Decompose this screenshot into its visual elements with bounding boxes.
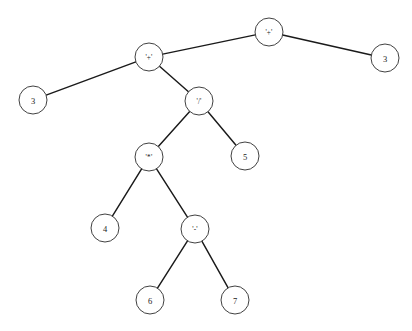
tree-node-n6[interactable]: 5 — [231, 142, 259, 170]
node-label-n0: '+' — [265, 29, 272, 37]
tree-edge-n5-n8 — [157, 169, 188, 217]
edge-layer — [46, 35, 371, 288]
tree-node-n1[interactable]: '+' — [135, 43, 163, 71]
node-label-n3: 3 — [31, 96, 35, 106]
expression-tree-figure: '+''+'33'/''*'54'-'67 — [0, 0, 412, 331]
node-label-n4: '/' — [196, 98, 201, 106]
tree-canvas: '+''+'33'/''*'54'-'67 — [0, 0, 412, 331]
tree-edge-n5-n7 — [112, 169, 141, 216]
node-label-n9: 6 — [148, 296, 152, 306]
tree-node-n2[interactable]: 3 — [371, 44, 399, 72]
tree-edge-n4-n6 — [208, 112, 236, 146]
tree-node-n10[interactable]: 7 — [221, 286, 249, 314]
node-layer: '+''+'33'/''*'54'-'67 — [19, 18, 399, 314]
tree-node-n0[interactable]: '+' — [255, 18, 283, 46]
node-label-n1: '+' — [145, 54, 152, 62]
node-label-n6: 5 — [243, 152, 247, 162]
node-label-n10: 7 — [233, 296, 237, 306]
tree-node-n5[interactable]: '*' — [135, 143, 163, 171]
node-label-n5: '*' — [146, 154, 153, 162]
tree-edge-n1-n3 — [46, 62, 136, 95]
tree-edge-n8-n9 — [157, 241, 187, 288]
tree-node-n3[interactable]: 3 — [19, 86, 47, 114]
tree-node-n8[interactable]: '-' — [181, 215, 209, 243]
node-label-n8: '-' — [192, 226, 198, 234]
tree-edge-n4-n5 — [158, 111, 189, 146]
tree-edge-n0-n2 — [283, 35, 372, 55]
tree-node-n7[interactable]: 4 — [91, 214, 119, 242]
tree-edge-n0-n1 — [163, 35, 256, 54]
node-label-n2: 3 — [383, 54, 387, 64]
figure-caption-strip — [0, 320, 412, 331]
tree-edge-n8-n10 — [202, 241, 228, 288]
tree-node-n9[interactable]: 6 — [136, 286, 164, 314]
tree-edge-n1-n4 — [160, 66, 189, 92]
tree-node-n4[interactable]: '/' — [185, 87, 213, 115]
